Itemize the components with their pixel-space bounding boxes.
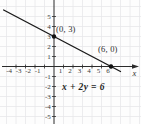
x-tick-label: 6 bbox=[106, 67, 110, 75]
y-tick-label: -3 bbox=[45, 93, 51, 101]
y-tick-label: 2 bbox=[47, 43, 51, 51]
x-tick-label: -3 bbox=[16, 67, 22, 75]
axes bbox=[2, 0, 139, 124]
x-axis-label: x bbox=[133, 69, 137, 78]
y-tick-label: 4 bbox=[47, 23, 51, 31]
x-tick-label: 5 bbox=[97, 67, 101, 75]
x-tick-label: -2 bbox=[25, 67, 31, 75]
point-label-x-intercept: (6, 0) bbox=[98, 45, 118, 54]
y-tick-label: 5 bbox=[47, 13, 51, 21]
point-label-y-intercept: (0, 3) bbox=[56, 25, 76, 34]
graph-figure: -4-3-2-112345654321-1-2-3-4-5 (0, 3) (6,… bbox=[0, 0, 141, 124]
y-tick-label: -1 bbox=[45, 73, 51, 81]
point-dot bbox=[52, 34, 56, 38]
line-series bbox=[4, 10, 121, 72]
equation-label: x + 2y = 6 bbox=[62, 83, 105, 93]
x-tick-label: -4 bbox=[6, 67, 12, 75]
y-tick-label: -4 bbox=[45, 103, 51, 111]
coordinate-plane: -4-3-2-112345654321-1-2-3-4-5 bbox=[0, 0, 141, 124]
y-tick-label: -2 bbox=[45, 83, 51, 91]
x-tick-label: 3 bbox=[78, 67, 82, 75]
x-tick-label: -1 bbox=[35, 67, 41, 75]
x-tick-label: 1 bbox=[59, 67, 63, 75]
y-tick-label: -5 bbox=[45, 113, 51, 121]
x-tick-label: 4 bbox=[87, 67, 91, 75]
x-tick-label: 2 bbox=[68, 67, 72, 75]
y-tick-label: 1 bbox=[47, 53, 51, 61]
plotted-line bbox=[4, 10, 121, 72]
point-dot bbox=[109, 64, 113, 68]
